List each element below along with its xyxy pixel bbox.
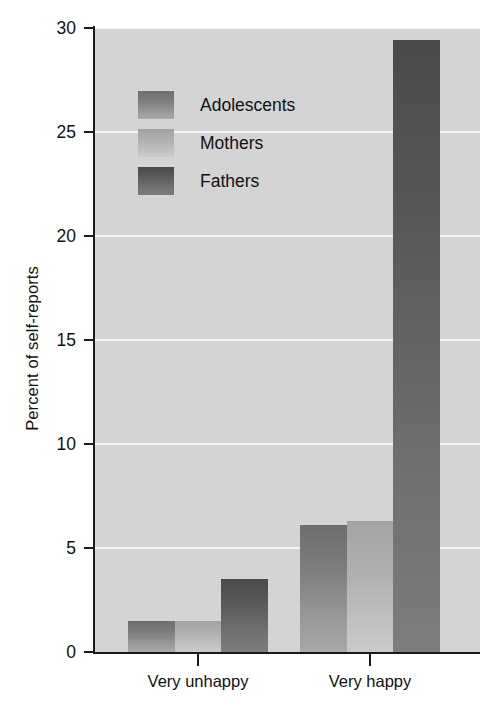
y-axis-tick-label: 0	[24, 642, 76, 663]
x-axis-tick-label: Very unhappy	[148, 672, 249, 691]
y-axis-tick	[84, 547, 94, 549]
bar-mothers-very-unhappy	[175, 621, 222, 652]
y-axis-tick-label: 25	[24, 122, 76, 143]
y-axis-tick	[84, 235, 94, 237]
y-axis-tick	[84, 27, 94, 29]
legend-item: Adolescents	[138, 86, 295, 124]
legend-item: Mothers	[138, 124, 295, 162]
bar-chart-figure: Percent of self-reports 051015202530Very…	[0, 0, 492, 709]
bar-mothers-very-happy	[347, 521, 394, 652]
y-axis-tick	[84, 651, 94, 653]
y-axis-tick-label: 20	[24, 226, 76, 247]
x-axis-tick-label: Very happy	[329, 672, 412, 691]
y-axis-tick-label: 15	[24, 330, 76, 351]
legend-label: Mothers	[200, 133, 263, 154]
legend-swatch-icon	[138, 167, 174, 195]
bar-adolescents-very-unhappy	[128, 621, 175, 652]
y-axis-tick-label: 30	[24, 18, 76, 39]
y-axis-tick	[84, 443, 94, 445]
y-axis-tick-label: 10	[24, 434, 76, 455]
chart-legend: Adolescents Mothers Fathers	[138, 86, 295, 200]
legend-swatch-icon	[138, 129, 174, 157]
legend-label: Fathers	[200, 171, 259, 192]
gridline	[95, 28, 480, 29]
bar-adolescents-very-happy	[300, 525, 347, 652]
x-axis-line	[93, 652, 480, 654]
legend-item: Fathers	[138, 162, 295, 200]
y-axis-tick	[84, 131, 94, 133]
bar-fathers-very-unhappy	[221, 579, 268, 652]
x-axis-tick	[197, 654, 199, 666]
y-axis-tick	[84, 339, 94, 341]
legend-label: Adolescents	[200, 95, 295, 116]
x-axis-tick	[369, 654, 371, 666]
y-axis-tick-label: 5	[24, 538, 76, 559]
legend-swatch-icon	[138, 91, 174, 119]
bar-fathers-very-happy	[393, 40, 440, 652]
